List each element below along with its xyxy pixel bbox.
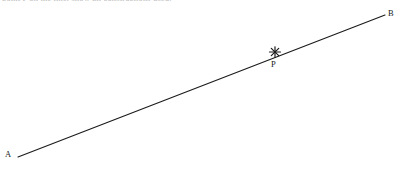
line-diagram-svg <box>0 0 402 182</box>
point-label-p: P <box>271 60 276 69</box>
geometry-figure-canvas: point P on the line, show all constructi… <box>0 0 402 182</box>
point-label-a: A <box>5 150 11 159</box>
point-label-b: B <box>388 9 394 18</box>
segment-ab <box>18 15 385 157</box>
star-marker-icon <box>270 47 281 57</box>
